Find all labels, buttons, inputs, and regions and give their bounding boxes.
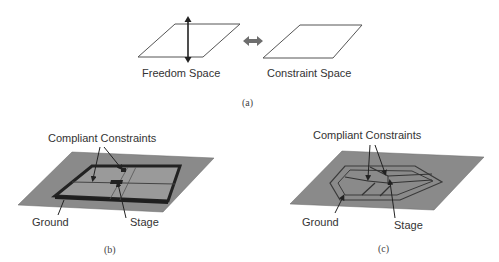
constraint-space-plane	[263, 25, 362, 58]
freedom-space-plane	[138, 24, 240, 57]
caption-b: (b)	[104, 244, 116, 256]
caption-c: (c)	[378, 243, 389, 255]
ground-label-c: Ground	[302, 216, 339, 228]
caption-a: (a)	[242, 97, 253, 109]
panel-a: Freedom Space Constraint Space (a)	[138, 16, 362, 109]
vertical-double-arrow-icon	[185, 16, 192, 63]
ground-plate-c	[290, 151, 484, 210]
compliant-constraints-label-b: Compliant Constraints	[48, 132, 157, 144]
ground-label-b: Ground	[32, 216, 69, 228]
stage-label-c: Stage	[394, 219, 423, 231]
horizontal-double-arrow-icon	[243, 36, 263, 46]
compliant-constraints-label-c: Compliant Constraints	[313, 129, 422, 141]
freedom-space-label: Freedom Space	[142, 67, 220, 79]
stage-label-b: Stage	[130, 216, 159, 228]
panel-c: Compliant Constraints Ground Stage (c)	[290, 129, 484, 255]
figure-canvas: Freedom Space Constraint Space (a) Compl…	[0, 0, 499, 262]
constraint-space-label: Constraint Space	[267, 67, 351, 79]
stage-block-b	[110, 180, 123, 184]
panel-b: Compliant Constraints Ground Stage (b)	[18, 132, 214, 256]
